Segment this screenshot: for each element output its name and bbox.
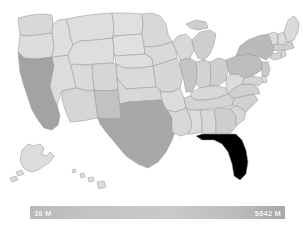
state-OR[interactable]: [18, 33, 54, 59]
map-svg: [0, 0, 303, 200]
state-CO[interactable]: [92, 63, 118, 91]
legend-max-label: $642 M: [255, 208, 281, 217]
state-SD[interactable]: [113, 34, 145, 56]
choropleth-map-widget: 38 M $642 M: [0, 0, 303, 226]
state-IN[interactable]: [196, 60, 211, 88]
state-AZ[interactable]: [62, 88, 98, 122]
state-AK[interactable]: [10, 144, 54, 182]
state-RI[interactable]: [281, 50, 286, 57]
legend-gradient-bar: [30, 206, 285, 219]
state-FL[interactable]: [196, 134, 248, 180]
map-legend: 38 M $642 M: [30, 206, 285, 219]
state-ME[interactable]: [284, 16, 299, 42]
state-NM[interactable]: [94, 90, 121, 119]
state-WA[interactable]: [18, 14, 53, 36]
state-MN[interactable]: [142, 13, 172, 47]
legend-min-label: 38 M: [34, 208, 51, 217]
state-HI[interactable]: [72, 169, 106, 189]
state-AL[interactable]: [200, 110, 216, 134]
us-choropleth-map: [0, 0, 303, 200]
state-NJ[interactable]: [262, 62, 270, 76]
state-OH[interactable]: [210, 58, 228, 86]
state-IL[interactable]: [180, 58, 197, 92]
